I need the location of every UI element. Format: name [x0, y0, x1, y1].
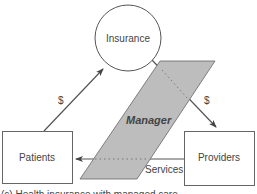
figure-caption: (c) Health insurance with managed care: [1, 189, 178, 194]
edge-label-services: Services: [145, 164, 183, 175]
edge-label-payment-to-insurance: $: [58, 95, 64, 106]
insurance-label: Insurance: [106, 33, 150, 44]
arrow-patients-to-insurance: [44, 69, 103, 131]
patients-label: Patients: [19, 152, 55, 163]
edge-label-payment-to-providers: $: [204, 95, 210, 106]
managed-care-diagram: $ Manager $ Insurance Patients Providers…: [0, 0, 257, 194]
manager-label: Manager: [126, 114, 172, 126]
providers-label: Providers: [198, 152, 240, 163]
